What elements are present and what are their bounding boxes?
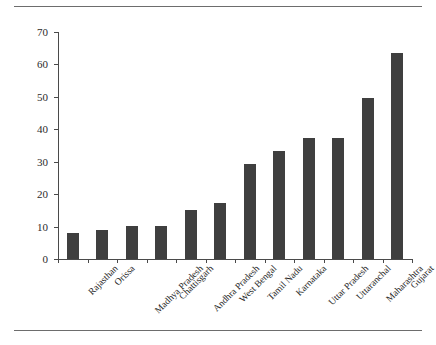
- top-rule: [14, 6, 422, 7]
- x-tick-mark: [412, 259, 413, 263]
- y-tick-label: 20: [37, 189, 48, 200]
- y-tick-label: 60: [37, 59, 48, 70]
- bar: [303, 138, 315, 259]
- x-tick-mark: [206, 259, 207, 263]
- bottom-rule: [14, 330, 422, 331]
- x-tick-mark: [383, 259, 384, 263]
- y-tick-mark: 70: [54, 32, 58, 33]
- y-tick-label: 0: [43, 254, 49, 265]
- bar: [155, 226, 167, 259]
- y-axis-line: [58, 32, 59, 259]
- y-tick-label: 10: [37, 221, 48, 232]
- y-tick-mark: 50: [54, 97, 58, 98]
- bar: [391, 53, 403, 259]
- x-tick-mark: [176, 259, 177, 263]
- x-tick-mark: [147, 259, 148, 263]
- bar: [214, 203, 226, 259]
- y-tick-mark: 30: [54, 162, 58, 163]
- x-tick-mark: [265, 259, 266, 263]
- x-tick-mark: [58, 259, 59, 263]
- x-tick-mark: [117, 259, 118, 263]
- figure: 010203040506070 RajasthanOrissaMadhya Pr…: [0, 0, 436, 345]
- x-tick-mark: [235, 259, 236, 263]
- bar: [126, 226, 138, 259]
- bar: [96, 230, 108, 260]
- bar: [185, 210, 197, 259]
- y-tick-mark: 40: [54, 129, 58, 130]
- y-tick-mark: 60: [54, 64, 58, 65]
- y-tick-mark: 10: [54, 227, 58, 228]
- x-tick-mark: [88, 259, 89, 263]
- bar: [273, 151, 285, 259]
- bar: [362, 98, 374, 259]
- y-tick-label: 30: [37, 156, 48, 167]
- y-tick-label: 40: [37, 124, 48, 135]
- x-tick-mark: [294, 259, 295, 263]
- y-tick-label: 50: [37, 91, 48, 102]
- plot-area: 010203040506070 RajasthanOrissaMadhya Pr…: [58, 32, 412, 259]
- y-tick-label: 70: [37, 27, 48, 38]
- bar: [67, 233, 79, 259]
- bar: [332, 138, 344, 259]
- y-tick-mark: 20: [54, 194, 58, 195]
- x-tick-mark: [324, 259, 325, 263]
- bar: [244, 164, 256, 259]
- x-tick-mark: [353, 259, 354, 263]
